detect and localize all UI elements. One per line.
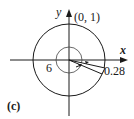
wedge-label: 0.28 — [104, 64, 125, 78]
x-axis-arrow-icon — [120, 57, 128, 63]
point-label: (0, 1) — [74, 10, 100, 24]
panel-label: (c) — [7, 99, 20, 113]
y-axis-arrow-icon — [66, 9, 72, 17]
x-axis-label: x — [119, 43, 126, 57]
unit-circle-diagram: y (0, 1) x 6 0.28 (c) — [0, 0, 134, 119]
inner-label: 6 — [46, 61, 52, 75]
y-axis-label: y — [55, 5, 62, 19]
